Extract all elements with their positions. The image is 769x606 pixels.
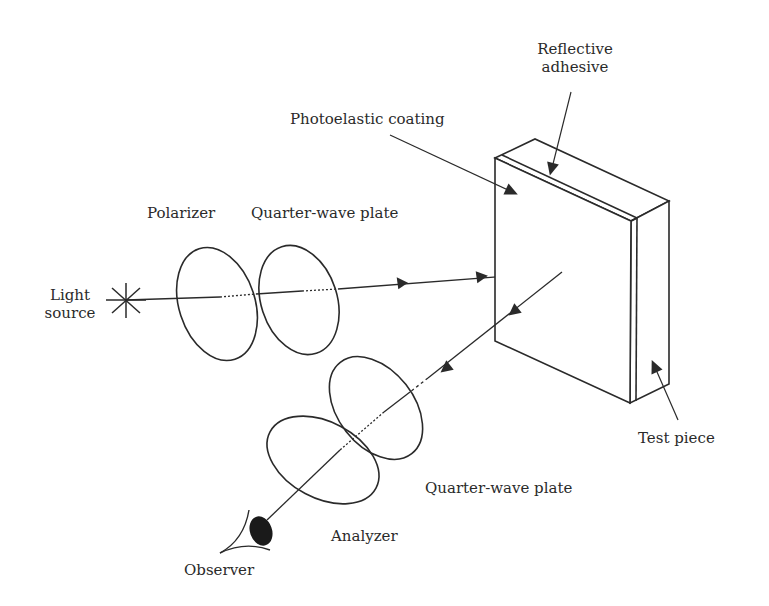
test-piece-box bbox=[495, 139, 669, 403]
arrow-icon bbox=[476, 271, 489, 284]
label-reflective-adhesive-line2: adhesive bbox=[525, 58, 625, 76]
label-reflective-adhesive: Reflective adhesive bbox=[525, 40, 625, 76]
label-reflective-adhesive-line1: Reflective bbox=[525, 40, 625, 58]
label-analyzer: Analyzer bbox=[331, 527, 398, 545]
arrow-icon bbox=[397, 277, 409, 290]
label-test-piece: Test piece bbox=[638, 429, 715, 447]
observer-eye-icon bbox=[220, 510, 276, 553]
analyzer-ellipse bbox=[252, 398, 394, 521]
label-photoelastic-coating: Photoelastic coating bbox=[290, 110, 445, 128]
label-quarter-wave-plate-1: Quarter-wave plate bbox=[251, 204, 398, 222]
light-source-icon bbox=[106, 283, 146, 318]
label-polarizer: Polarizer bbox=[147, 204, 215, 222]
label-light-source: Light source bbox=[38, 286, 102, 322]
quarter-wave-plate-1-ellipse bbox=[246, 235, 353, 365]
label-observer: Observer bbox=[184, 561, 254, 579]
quarter-wave-plate-2-ellipse bbox=[310, 339, 441, 477]
polarizer-ellipse bbox=[163, 237, 271, 371]
polariscope-diagram bbox=[0, 0, 769, 606]
label-quarter-wave-plate-2: Quarter-wave plate bbox=[425, 479, 572, 497]
label-light-source-line1: Light bbox=[38, 286, 102, 304]
label-light-source-line2: source bbox=[38, 304, 102, 322]
